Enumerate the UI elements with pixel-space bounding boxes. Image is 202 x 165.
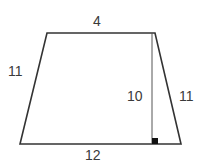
right-angle-marker bbox=[152, 138, 158, 144]
top-base-label: 4 bbox=[93, 14, 101, 28]
trapezoid-figure bbox=[0, 0, 202, 165]
bottom-base-label: 12 bbox=[85, 148, 101, 162]
left-side-label: 11 bbox=[8, 64, 23, 78]
trapezoid-diagram: 4 11 10 11 12 bbox=[0, 0, 202, 165]
height-label: 10 bbox=[127, 89, 143, 103]
right-side-label: 11 bbox=[179, 89, 194, 103]
trapezoid-shape bbox=[20, 33, 181, 144]
